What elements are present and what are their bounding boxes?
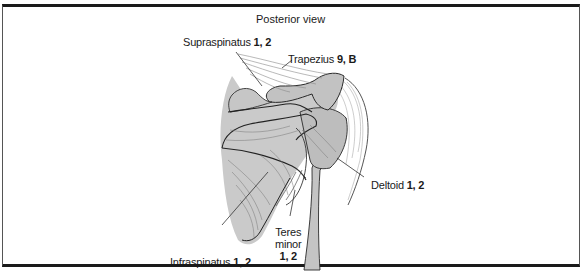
label-teres-minor: Teres minor 1, 2 xyxy=(275,226,302,262)
label-infraspinatus: Infraspinatus 1, 2 xyxy=(170,256,251,268)
label-supraspinatus: Supraspinatus 1, 2 xyxy=(183,36,271,48)
figure-title: Posterior view xyxy=(256,13,325,25)
label-trapezius: Trapezius 9, B xyxy=(288,53,356,65)
label-deltoid: Deltoid 1, 2 xyxy=(371,179,424,191)
